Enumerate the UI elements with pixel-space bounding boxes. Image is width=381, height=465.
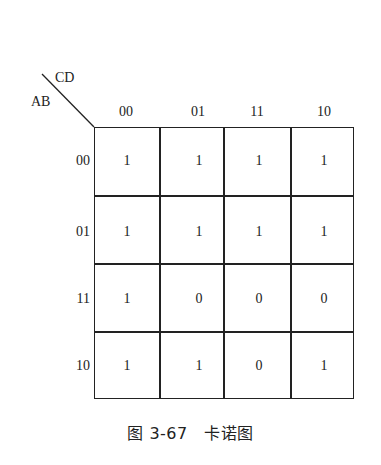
map-cell: 1 bbox=[167, 153, 231, 169]
figure-caption: 图 3-67 卡诺图 bbox=[0, 420, 381, 444]
map-cell: 1 bbox=[95, 358, 159, 374]
row-label: 00 bbox=[64, 153, 90, 169]
col-label: 01 bbox=[166, 104, 230, 120]
row-variable-label: AB bbox=[31, 94, 50, 110]
row-label: 10 bbox=[64, 358, 90, 374]
col-label: 10 bbox=[292, 104, 356, 120]
map-cell: 0 bbox=[227, 291, 291, 307]
col-label: 11 bbox=[225, 104, 289, 120]
col-variable-label: CD bbox=[55, 70, 74, 86]
map-cell: 1 bbox=[167, 358, 231, 374]
col-label: 00 bbox=[94, 104, 158, 120]
map-cell: 1 bbox=[95, 153, 159, 169]
map-cell: 1 bbox=[227, 153, 291, 169]
map-cell: 0 bbox=[227, 358, 291, 374]
map-cell: 1 bbox=[95, 224, 159, 240]
map-cell: 1 bbox=[292, 358, 356, 374]
map-cell: 1 bbox=[95, 291, 159, 307]
map-cell: 1 bbox=[292, 153, 356, 169]
row-label: 11 bbox=[64, 291, 90, 307]
map-cell: 1 bbox=[292, 224, 356, 240]
map-cell: 0 bbox=[292, 291, 356, 307]
map-cell: 0 bbox=[167, 291, 231, 307]
map-cell: 1 bbox=[227, 224, 291, 240]
map-cell: 1 bbox=[167, 224, 231, 240]
karnaugh-map-grid: 1 1 1 1 1 1 1 1 1 0 0 0 1 1 0 1 bbox=[94, 127, 354, 399]
row-label: 01 bbox=[64, 224, 90, 240]
